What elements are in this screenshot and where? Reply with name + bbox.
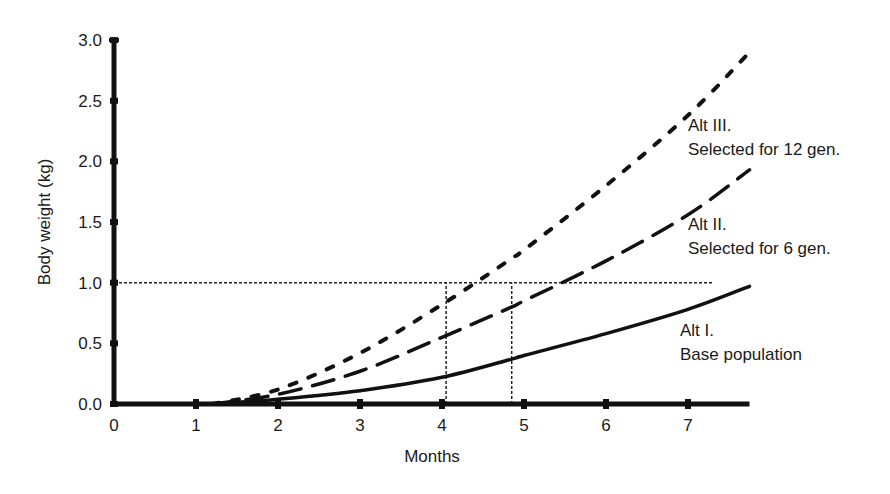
ticks: 0.00.51.01.52.02.53.001234567 (78, 31, 692, 435)
x-tick-label: 7 (683, 416, 692, 435)
x-tick-label: 0 (109, 416, 118, 435)
x-tick-mark (275, 399, 281, 409)
y-tick-label: 0.5 (78, 334, 102, 353)
y-tick-mark (110, 401, 118, 407)
x-tick-mark (521, 399, 527, 409)
x-tick-label: 1 (191, 416, 200, 435)
svg-text:Alt II.: Alt II. (688, 215, 727, 234)
y-tick-mark (110, 340, 118, 346)
y-tick-mark (110, 280, 118, 286)
y-tick-label: 0.0 (78, 395, 102, 414)
svg-text:Alt I.: Alt I. (680, 321, 714, 340)
y-tick-label: 1.0 (78, 274, 102, 293)
x-tick-label: 6 (601, 416, 610, 435)
annotation-alt-i: Alt I. Base population (680, 321, 802, 364)
y-tick-label: 2.5 (78, 92, 102, 111)
svg-text:Selected for 12 gen.: Selected for 12 gen. (688, 140, 840, 159)
svg-text:Selected for 6 gen.: Selected for 6 gen. (688, 239, 831, 258)
y-tick-mark (110, 158, 118, 164)
y-tick-label: 1.5 (78, 213, 102, 232)
y-axis-title: Body weight (kg) (35, 159, 54, 286)
axes (109, 38, 750, 406)
x-tick-mark (439, 399, 445, 409)
svg-text:Alt III.: Alt III. (688, 116, 731, 135)
x-tick-mark (357, 399, 363, 409)
x-tick-label: 2 (273, 416, 282, 435)
y-tick-label: 3.0 (78, 31, 102, 50)
y-tick-mark (110, 219, 118, 225)
x-tick-label: 4 (437, 416, 446, 435)
annotation-alt-iii: Alt III. Selected for 12 gen. (688, 116, 840, 159)
x-tick-mark (603, 399, 609, 409)
x-tick-mark (193, 399, 199, 409)
growth-chart: 0.00.51.01.52.02.53.001234567 Months Bod… (0, 0, 890, 494)
curves (212, 52, 749, 404)
annotation-alt-ii: Alt II. Selected for 6 gen. (688, 215, 831, 258)
reference-lines (114, 283, 713, 404)
y-tick-label: 2.0 (78, 152, 102, 171)
y-tick-mark (110, 98, 118, 104)
x-tick-mark (685, 399, 691, 409)
x-axis-title: Months (404, 447, 460, 466)
x-tick-label: 3 (355, 416, 364, 435)
x-tick-label: 5 (519, 416, 528, 435)
y-tick-mark (110, 37, 118, 43)
svg-text:Base population: Base population (680, 345, 802, 364)
curve-alt-i (212, 286, 749, 404)
